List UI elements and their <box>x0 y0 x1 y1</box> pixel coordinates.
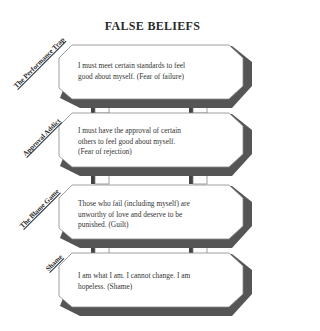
belief-text-line: others to feel good about myself. <box>78 137 228 148</box>
belief-text-line: I am what I am. I cannot change. I am <box>78 271 228 282</box>
belief-text-1: I must meet certain standards to feel go… <box>78 61 228 82</box>
belief-text-4: I am what I am. I cannot change. I am ho… <box>78 271 228 292</box>
belief-text-line: hopeless. (Shame) <box>78 282 228 293</box>
belief-text-line: punished. (Guilt) <box>78 220 228 231</box>
belief-text-line: I must have the approval of certain <box>78 126 228 137</box>
belief-text-line: Those who fail (including myself) are <box>78 199 228 210</box>
belief-text-line: good about myself. (Fear of failure) <box>78 72 228 83</box>
belief-text-2: I must have the approval of certain othe… <box>78 126 228 158</box>
belief-text-line: (Fear of rejection) <box>78 147 228 158</box>
belief-text-line: I must meet certain standards to feel <box>78 61 228 72</box>
belief-text-3: Those who fail (including myself) are un… <box>78 199 228 231</box>
belief-text-line: unworthy of love and deserve to be <box>78 210 228 221</box>
